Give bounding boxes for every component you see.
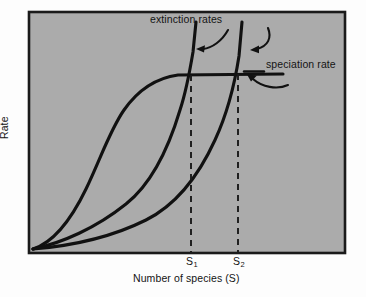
x-tick-label-s1: S1 xyxy=(186,255,198,267)
x-tick-label-s2: S2 xyxy=(233,255,245,267)
y-axis-label: Rate xyxy=(0,116,10,139)
speciation-rate-label: speciation rate xyxy=(266,58,336,70)
figure-container: extinction rates speciation rate Rate Nu… xyxy=(0,0,366,297)
x-tick-s1-subscript: 1 xyxy=(193,260,198,269)
diagram-canvas xyxy=(0,0,366,297)
extinction-rates-label: extinction rates xyxy=(150,13,222,25)
plot-area-background xyxy=(29,12,345,253)
x-tick-s2-subscript: 2 xyxy=(240,260,245,269)
x-axis-label: Number of species (S) xyxy=(133,272,240,284)
